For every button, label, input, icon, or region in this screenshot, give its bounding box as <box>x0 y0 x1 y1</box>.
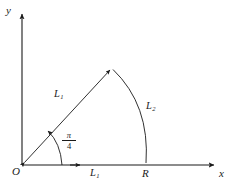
axis-segment-base: L <box>90 167 96 178</box>
angle-fraction-label: π 4 <box>62 131 76 151</box>
y-axis-label: y <box>6 5 11 16</box>
angle-arc-pi-over-4 <box>48 131 62 165</box>
arc-length-label: L2 <box>146 101 155 112</box>
axis-segment-subscript: 1 <box>96 172 100 179</box>
angle-denominator: 4 <box>62 142 76 151</box>
ray-length-base: L <box>54 88 60 99</box>
arc-length-subscript: 2 <box>152 105 156 112</box>
radius-point-label: R <box>142 168 149 179</box>
arc-length-base: L <box>146 100 152 111</box>
arc-L2 <box>113 70 146 164</box>
geometry-diagram: y x O L1 L2 L1 R π 4 <box>0 0 233 187</box>
x-axis-label: x <box>219 168 224 179</box>
angle-numerator: π <box>62 131 76 140</box>
ray-length-label: L1 <box>54 89 63 100</box>
origin-label: O <box>12 166 20 177</box>
diagram-canvas <box>0 0 233 187</box>
ray-length-subscript: 1 <box>60 93 64 100</box>
axis-segment-label: L1 <box>90 168 99 179</box>
